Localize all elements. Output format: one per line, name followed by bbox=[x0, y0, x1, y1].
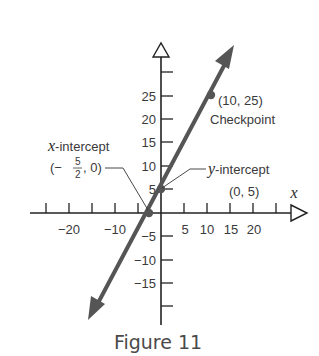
graph-figure: −20 −10 5 10 15 20 25 20 15 10 5 −5 −10 … bbox=[0, 0, 319, 356]
line-y-2x-plus-5 bbox=[98, 62, 226, 303]
svg-text:, 0): , 0) bbox=[83, 160, 102, 175]
svg-text:(0, 5): (0, 5) bbox=[229, 184, 259, 199]
x-tick-label: 20 bbox=[247, 222, 261, 237]
line-arrow-down-icon bbox=[88, 296, 105, 320]
x-intercept-point bbox=[145, 209, 153, 217]
y-intercept-annotation: y-intercept (0, 5) bbox=[206, 160, 270, 199]
y-tick-label: −5 bbox=[141, 229, 156, 244]
x-tick-label: −20 bbox=[58, 222, 80, 237]
y-axis-arrow-icon bbox=[153, 43, 169, 57]
line-arrow-up-icon bbox=[215, 45, 234, 69]
y-tick-label: 10 bbox=[142, 159, 156, 174]
svg-text:(10, 25): (10, 25) bbox=[218, 93, 263, 108]
y-tick-label: 20 bbox=[142, 112, 156, 127]
svg-text:y-intercept: y-intercept bbox=[206, 160, 270, 178]
y-intercept-point bbox=[157, 185, 165, 193]
svg-text:x-intercept: x-intercept bbox=[47, 137, 110, 154]
svg-text:5: 5 bbox=[75, 156, 81, 167]
svg-text:2: 2 bbox=[75, 169, 81, 180]
y-tick-label: −10 bbox=[134, 253, 156, 268]
checkpoint-point bbox=[207, 91, 215, 99]
y-tick-label: −15 bbox=[134, 276, 156, 291]
checkpoint-annotation: (10, 25) Checkpoint bbox=[210, 93, 275, 127]
x-axis-arrow-icon bbox=[291, 205, 307, 221]
x-tick-label: 5 bbox=[181, 222, 188, 237]
x-tick-label: 10 bbox=[200, 222, 214, 237]
svg-text:Checkpoint: Checkpoint bbox=[210, 112, 275, 127]
y-tick-label: 25 bbox=[142, 89, 156, 104]
x-tick-label: −10 bbox=[104, 222, 126, 237]
y-tick-label: 15 bbox=[142, 135, 156, 150]
svg-text:(−: (− bbox=[50, 160, 62, 175]
x-intercept-leader bbox=[105, 168, 148, 210]
x-axis-label: x bbox=[289, 184, 297, 201]
x-tick-label: 15 bbox=[224, 222, 238, 237]
x-intercept-annotation: x-intercept (− 5 2 , 0) bbox=[47, 137, 110, 180]
figure-caption: Figure 11 bbox=[114, 331, 202, 353]
